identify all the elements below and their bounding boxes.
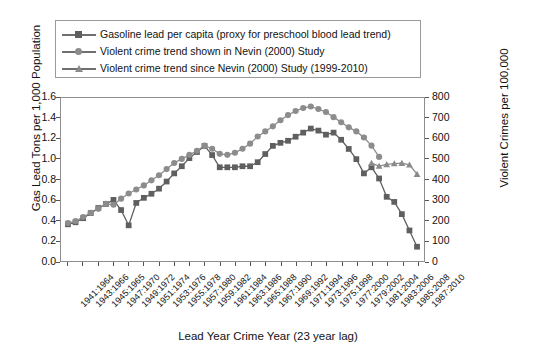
y-tick-right-700: 700 <box>432 111 466 123</box>
x-tick-mark <box>357 262 358 266</box>
data-point-circle <box>308 103 314 109</box>
legend-item-violent-crime-since: Violent crime trend since Nevin (2000) S… <box>62 60 414 77</box>
y-tick-right-200: 200 <box>432 214 466 226</box>
data-point-circle <box>201 143 207 149</box>
x-tick-mark <box>174 262 175 266</box>
y-tick-left-1.6: 1.6 <box>22 90 56 102</box>
lead-crime-chart: Gasoline lead per capita (proxy for pres… <box>0 0 536 349</box>
y-tick-right-400: 400 <box>432 173 466 185</box>
circle-marker-icon <box>75 48 82 55</box>
y-tick-right-300: 300 <box>432 193 466 205</box>
data-point-circle <box>126 190 132 196</box>
x-tick-mark <box>281 262 282 266</box>
triangle-marker-icon <box>75 65 83 72</box>
data-point-square <box>391 199 397 205</box>
data-point-square <box>179 163 185 169</box>
y-tick-left-0.6: 0.6 <box>22 193 56 205</box>
data-point-square <box>133 200 139 206</box>
x-tick-mark <box>204 262 205 266</box>
data-point-square <box>171 171 177 177</box>
data-point-circle <box>65 220 71 226</box>
data-point-circle <box>300 105 306 111</box>
data-point-square <box>217 164 223 170</box>
y-tick-mark-left <box>56 138 60 139</box>
data-point-square <box>270 143 276 149</box>
data-point-circle <box>323 109 329 115</box>
y-tick-mark-right <box>425 158 429 159</box>
data-point-circle <box>255 133 261 139</box>
data-point-circle <box>133 186 139 192</box>
plot-svg <box>61 98 424 261</box>
data-point-circle <box>368 143 374 149</box>
x-tick-mark <box>113 262 114 266</box>
data-point-square <box>399 211 405 217</box>
data-point-square <box>361 171 367 177</box>
y-tick-mark-right <box>425 200 429 201</box>
data-point-circle <box>346 124 352 130</box>
chart-legend: Gasoline lead per capita (proxy for pres… <box>55 20 421 78</box>
y-tick-mark-right <box>425 117 429 118</box>
x-tick-mark <box>98 262 99 266</box>
y-tick-left-1.2: 1.2 <box>22 131 56 143</box>
data-point-square <box>376 176 382 182</box>
data-point-circle <box>179 156 185 162</box>
y-tick-mark-right <box>425 138 429 139</box>
x-tick-mark <box>265 262 266 266</box>
x-tick-mark <box>235 262 236 266</box>
y-tick-mark-left <box>56 117 60 118</box>
x-tick-mark <box>387 262 388 266</box>
x-tick-mark <box>67 262 68 266</box>
data-point-square <box>293 134 299 140</box>
data-point-circle <box>239 146 245 152</box>
data-point-square <box>126 222 132 228</box>
data-point-circle <box>209 146 215 152</box>
data-point-square <box>323 132 329 138</box>
data-point-square <box>414 244 420 250</box>
x-tick-mark <box>220 262 221 266</box>
x-tick-mark <box>403 262 404 266</box>
data-point-square <box>331 130 337 136</box>
x-tick-mark <box>326 262 327 266</box>
data-point-circle <box>330 114 336 120</box>
data-point-circle <box>156 172 162 178</box>
data-point-circle <box>164 166 170 172</box>
data-point-square <box>384 194 390 200</box>
data-point-circle <box>110 202 116 208</box>
data-point-square <box>232 164 238 170</box>
data-point-circle <box>247 141 253 147</box>
x-tick-mark <box>189 262 190 266</box>
data-point-circle <box>194 148 200 154</box>
data-point-circle <box>148 177 154 183</box>
data-point-circle <box>293 108 299 114</box>
y-tick-left-0.8: 0.8 <box>22 173 56 185</box>
data-point-square <box>262 151 268 157</box>
data-point-circle <box>103 201 109 207</box>
x-tick-mark <box>311 262 312 266</box>
legend-label-gasoline-lead: Gasoline lead per capita (proxy for pres… <box>100 29 391 40</box>
x-tick-mark <box>82 262 83 266</box>
data-point-circle <box>353 128 359 134</box>
plot-area <box>60 97 425 262</box>
data-point-square <box>285 138 291 144</box>
x-tick-mark <box>342 262 343 266</box>
data-point-square <box>118 207 124 213</box>
legend-item-violent-crime-nevin: Violent crime trend shown in Nevin (2000… <box>62 43 414 60</box>
data-point-square <box>346 146 352 152</box>
legend-key-triangle <box>62 63 96 74</box>
x-tick-mark <box>128 262 129 266</box>
y-tick-mark-left <box>56 179 60 180</box>
data-point-circle <box>270 123 276 129</box>
y-axis-right-title: Violent Crimes per 100,000 <box>498 18 510 218</box>
data-point-circle <box>315 106 321 112</box>
y-tick-left-0.0: 0.0 <box>22 255 56 267</box>
data-point-circle <box>224 152 230 158</box>
x-tick-mark <box>250 262 251 266</box>
x-tick-mark <box>143 262 144 266</box>
data-point-square <box>255 159 261 165</box>
y-tick-mark-right <box>425 97 429 98</box>
y-tick-right-800: 800 <box>432 90 466 102</box>
data-point-circle <box>72 218 78 224</box>
data-point-circle <box>141 182 147 188</box>
data-point-square <box>338 137 344 143</box>
data-point-triangle <box>368 160 375 166</box>
